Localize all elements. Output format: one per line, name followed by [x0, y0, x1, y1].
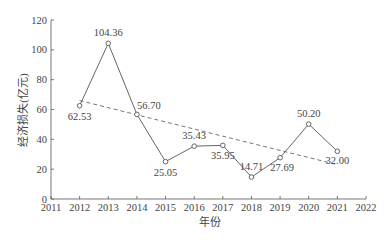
data-label: 25.05: [154, 167, 178, 178]
data-point-marker: [106, 41, 111, 46]
data-point-marker: [192, 144, 197, 149]
data-label: 104.36: [94, 27, 123, 38]
x-axis-title: 年份: [199, 215, 221, 228]
x-tick-label: 2012: [69, 202, 90, 213]
data-point-marker: [306, 122, 311, 127]
data-label: 35.95: [211, 150, 235, 161]
data-label: 14.71: [240, 161, 264, 172]
y-tick-label: 120: [31, 15, 47, 26]
data-labels: 62.53104.3656.7025.0535.4335.9514.7127.6…: [68, 27, 349, 177]
data-point-marker: [163, 159, 168, 164]
data-label: 56.70: [137, 100, 161, 111]
line-chart: 2011201220132014201520162017201820192020…: [0, 0, 390, 242]
x-tick-label: 2016: [184, 202, 205, 213]
data-point-marker: [77, 103, 82, 108]
data-label: 35.43: [182, 130, 206, 141]
data-point-marker: [249, 175, 254, 180]
y-tick-label: 100: [31, 44, 47, 55]
x-tick-label: 2017: [212, 202, 233, 213]
x-tick-label: 2022: [356, 202, 377, 213]
data-point-marker: [135, 112, 140, 117]
data-label: 62.53: [68, 111, 92, 122]
data-point-marker: [221, 143, 226, 148]
x-tick-label: 2018: [241, 202, 262, 213]
x-tick-label: 2021: [327, 202, 348, 213]
y-axis-title: 经济损失(亿元): [16, 73, 30, 147]
y-tick-label: 80: [37, 74, 48, 85]
x-tick-label: 2013: [98, 202, 119, 213]
y-tick-label: 0: [42, 194, 47, 205]
data-point-marker: [335, 149, 340, 154]
data-point-marker: [278, 155, 283, 160]
x-tick-label: 2020: [298, 202, 319, 213]
x-tick-label: 2015: [155, 202, 176, 213]
y-tick-label: 20: [37, 164, 48, 175]
y-tick-label: 40: [37, 134, 48, 145]
data-label: 50.20: [297, 108, 321, 119]
x-tick-label: 2019: [270, 202, 291, 213]
data-label: 27.69: [270, 162, 294, 173]
data-label: 32.00: [326, 155, 350, 166]
x-tick-label: 2014: [126, 202, 148, 213]
y-tick-label: 60: [37, 104, 48, 115]
